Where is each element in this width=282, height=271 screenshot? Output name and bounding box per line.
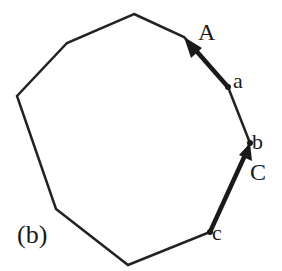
label-c: c [212,220,222,245]
label-b: b [252,129,263,154]
label-A: A [198,19,216,45]
point-a [225,84,231,90]
panel-label: (b) [17,220,47,249]
label-C: C [250,159,266,185]
polygon-diagram: A a b C c (b) [0,0,282,271]
label-a: a [233,68,243,93]
